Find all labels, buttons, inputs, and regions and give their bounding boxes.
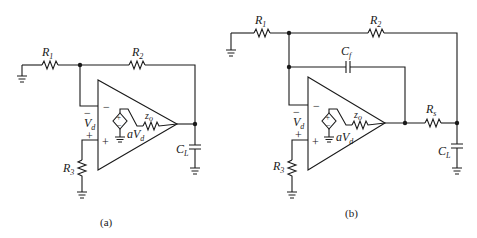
resistor-rs [425,119,441,127]
output-node [403,121,407,125]
label-r1: R1 [41,45,53,61]
label-r3: R3 [272,159,284,175]
resistor-zo [352,121,385,129]
label-avd: aVd [336,130,354,146]
svg-text:−: − [117,121,122,130]
caption-b: (b) [345,207,358,220]
label-cf: Cf [341,44,353,60]
noninv-sign: + [312,135,319,149]
resistor-r2 [368,29,384,37]
capacitor-cl [189,124,201,174]
resistor-zo [143,122,177,130]
inv-sign: − [313,99,320,113]
label-avd: aVd [127,127,145,143]
resistor-r1 [254,29,270,37]
capacitor-cf [346,61,350,73]
panel-a: R1 R2 − + − Vd + R3 + − [17,45,201,229]
ground-icon [287,192,297,198]
caption-a: (a) [100,216,113,229]
opamp-triangle [308,77,385,170]
svg-text:−: − [326,121,331,130]
noninv-sign: + [102,135,109,149]
label-zo: zo [353,109,362,122]
resistor-r2 [129,61,145,69]
circuit-figure: R1 R2 − + − Vd + R3 + − [0,0,477,238]
resistor-r3 [288,160,296,192]
inv-sign: − [103,100,110,114]
label-r1: R1 [254,13,266,29]
label-zo: zo [144,110,153,123]
label-cl: CL [438,144,451,160]
resistor-r1 [42,61,58,69]
ground-icon [17,65,27,82]
ground-icon [77,192,87,198]
label-r2: R2 [131,45,143,61]
label-cl: CL [176,142,189,158]
label-r3: R3 [62,161,74,177]
resistor-r3 [78,160,86,192]
label-rs: Rs [425,102,436,118]
label-r2: R2 [369,13,381,29]
capacitor-cl [451,123,463,174]
ground-icon [226,33,236,56]
vd-plus: + [86,129,93,143]
panel-b: R1 R2 Cf − + − Vd + R3 [226,13,463,220]
